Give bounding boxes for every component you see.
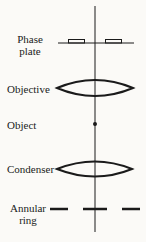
objective-label: Objective [7, 83, 50, 95]
annular-ring-label-line1: Annular [9, 202, 47, 214]
phase-plate-label-line2: plate [14, 45, 46, 57]
phase-contrast-diagram: Phase plate Objective Object Condenser A… [0, 0, 146, 242]
object-point [93, 122, 97, 126]
phase-plate-label-line1: Phase [14, 33, 46, 45]
annular-ring-label: Annular ring [9, 202, 47, 226]
annular-ring-label-line2: ring [9, 214, 47, 226]
phase-plate-shape [58, 40, 134, 44]
object-label: Object [7, 119, 36, 131]
condenser-label: Condenser [7, 163, 54, 175]
phase-plate-label: Phase plate [14, 33, 46, 57]
